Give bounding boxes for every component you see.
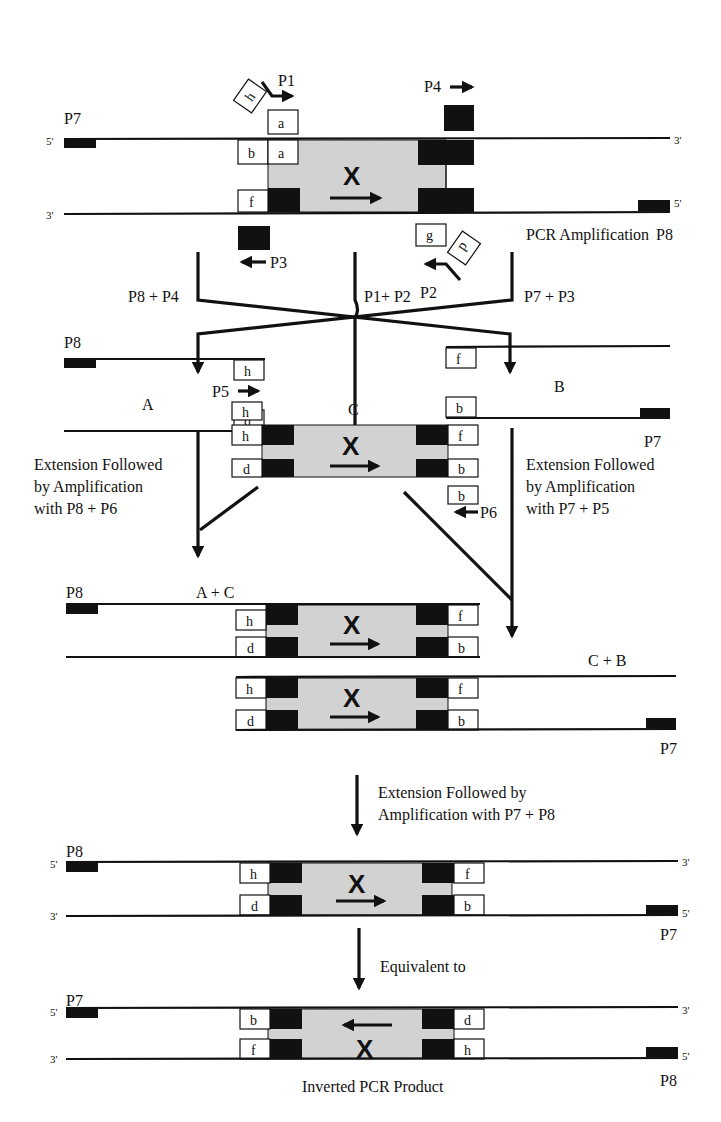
svg-text:P8: P8 (660, 1072, 677, 1089)
p7-site (64, 139, 96, 148)
svg-text:d: d (243, 462, 250, 477)
svg-text:f: f (465, 867, 470, 882)
svg-text:by Amplification: by Amplification (526, 478, 635, 496)
svg-text:with P7 + P5: with P7 + P5 (526, 500, 609, 517)
product-a-plus-c: P8 A + C X h d f b (66, 584, 480, 657)
primer-p2-arrow (426, 264, 460, 280)
svg-text:A + C: A + C (196, 584, 234, 601)
svg-text:b: b (458, 714, 465, 729)
primer-p7-label: P7 (64, 110, 81, 127)
svg-text:3': 3' (50, 910, 58, 922)
svg-text:X: X (343, 683, 361, 713)
template-duplex: P7 5' 3' 3' 5' P8 X b a f a h P1 P4 (46, 72, 682, 301)
svg-text:h: h (464, 1043, 471, 1058)
step3-line1: Extension Followed by (378, 784, 526, 802)
svg-text:P7: P7 (66, 992, 83, 1009)
five-prime-label: 5' (674, 197, 682, 209)
svg-text:with P8 + P6: with P8 + P6 (34, 500, 117, 517)
step2-right-line1: Extension Followed (526, 456, 654, 473)
inverted-pcr-diagram: P7 5' 3' 3' 5' P8 X b a f a h P1 P4 (0, 0, 721, 1122)
five-prime-label: 5' (46, 135, 54, 147)
svg-text:h: h (244, 364, 251, 379)
svg-text:h: h (246, 682, 253, 697)
svg-text:d: d (251, 899, 258, 914)
svg-text:5': 5' (50, 858, 58, 870)
svg-text:X: X (343, 610, 361, 640)
inverted-pcr-caption: Inverted PCR Product (302, 1078, 444, 1095)
step-pcr-amplification: PCR Amplification (526, 226, 649, 244)
svg-text:f: f (458, 682, 463, 697)
primer-p2-label: P2 (420, 284, 437, 301)
primer-p1-label: P1 (278, 72, 295, 89)
svg-text:b: b (458, 641, 465, 656)
svg-text:h: h (242, 405, 249, 420)
svg-text:b: b (458, 489, 465, 504)
svg-text:P8: P8 (66, 584, 83, 601)
step4-label: Equivalent to (380, 958, 466, 976)
branch-label-left: P8 + P4 (128, 288, 179, 305)
product-final: P8 5' 3' 3' 5' X h d f b P7 (50, 843, 690, 943)
svg-text:3': 3' (50, 1053, 58, 1065)
svg-text:d: d (247, 714, 254, 729)
top-strand (64, 138, 670, 139)
svg-text:b: b (248, 146, 255, 161)
p8-site (638, 200, 670, 211)
product-b: f B b P7 (446, 346, 670, 450)
insert-label: X (343, 161, 361, 191)
svg-text:h: h (250, 867, 257, 882)
primer-p3-label: P3 (270, 254, 287, 271)
primer-p8-label: P8 (656, 226, 673, 243)
svg-text:b: b (250, 1013, 257, 1028)
svg-text:P5: P5 (212, 383, 229, 400)
svg-text:d: d (464, 1013, 471, 1028)
branch-label-right: P7 + P3 (524, 288, 575, 305)
svg-text:b: b (456, 401, 463, 416)
three-prime-label: 3' (674, 134, 682, 146)
svg-text:A: A (142, 396, 154, 413)
svg-text:a: a (278, 146, 285, 161)
svg-text:Amplification with P7 + P8: Amplification with P7 + P8 (378, 806, 555, 824)
svg-text:P7: P7 (644, 433, 661, 450)
svg-text:f: f (458, 609, 463, 624)
three-prime-label: 3' (46, 209, 54, 221)
svg-text:C: C (348, 401, 359, 418)
svg-text:X: X (342, 431, 360, 461)
svg-text:C + B: C + B (588, 652, 626, 669)
svg-text:d: d (247, 641, 254, 656)
primer-p4-label: P4 (424, 78, 441, 95)
pcr-branches: PCR Amplification P8 + P4 P1+ P2 P7 + P3 (128, 226, 649, 450)
svg-text:b: b (458, 462, 465, 477)
svg-text:a: a (278, 116, 285, 131)
svg-text:B: B (554, 378, 565, 395)
svg-text:5': 5' (50, 1006, 58, 1018)
primer-p3-site (238, 226, 270, 250)
svg-text:P6: P6 (480, 504, 497, 521)
svg-text:P7: P7 (660, 926, 677, 943)
svg-text:h: h (242, 429, 249, 444)
svg-text:3': 3' (682, 856, 690, 868)
svg-text:b: b (464, 899, 471, 914)
svg-text:f: f (251, 1043, 256, 1058)
svg-text:by Amplification: by Amplification (34, 478, 143, 496)
svg-text:3': 3' (682, 1004, 690, 1016)
svg-text:f: f (458, 429, 463, 444)
svg-text:P8: P8 (66, 843, 83, 860)
svg-text:P7: P7 (660, 740, 677, 757)
primer-p4-site (444, 105, 474, 131)
svg-text:P8: P8 (64, 334, 81, 351)
svg-text:f: f (456, 352, 461, 367)
svg-text:g: g (426, 228, 433, 243)
svg-text:5': 5' (682, 907, 690, 919)
svg-text:X: X (348, 869, 366, 899)
svg-text:5': 5' (682, 1050, 690, 1062)
step2-left-line1: Extension Followed (34, 456, 162, 473)
branch-label-middle: P1+ P2 (364, 288, 411, 305)
product-inverted: P7 5' 3' 3' 5' X b f d h P8 Inverted PCR… (50, 992, 690, 1095)
svg-text:h: h (246, 614, 253, 629)
svg-text:f: f (249, 195, 254, 210)
product-c-plus-b: C + B X h d f b P7 (236, 652, 677, 757)
